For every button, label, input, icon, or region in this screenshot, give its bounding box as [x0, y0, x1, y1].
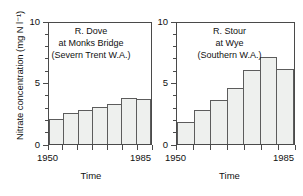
- bar-series-stour: [177, 23, 294, 144]
- y-axis-tick-label: 10: [18, 16, 40, 27]
- x-axis-tick: [92, 145, 93, 150]
- y-axis-major-tick: [171, 83, 176, 84]
- x-axis-tick-label-start: 1950: [37, 152, 58, 163]
- x-axis-tick: [122, 145, 123, 150]
- y-axis-minor-tick: [45, 46, 48, 47]
- y-axis-tick-label: 5: [146, 77, 168, 88]
- x-axis-tick: [137, 145, 138, 150]
- bar: [63, 113, 78, 144]
- y-axis-minor-tick: [173, 132, 176, 133]
- y-axis-minor-tick: [45, 132, 48, 133]
- bar: [78, 110, 93, 144]
- y-axis-minor-tick: [45, 120, 48, 121]
- bar: [136, 99, 151, 144]
- plot-area-stour: [176, 22, 295, 145]
- y-axis-major-tick: [171, 22, 176, 23]
- x-axis-tick-label-end: 1985: [273, 152, 294, 163]
- y-axis-minor-tick: [45, 95, 48, 96]
- x-axis-label-dove: Time: [30, 170, 152, 181]
- bar: [49, 119, 64, 144]
- x-axis-tick-label-end: 1985: [130, 152, 151, 163]
- y-axis-minor-tick: [173, 120, 176, 121]
- bar: [227, 88, 245, 144]
- bar: [194, 110, 212, 144]
- x-axis-tick: [48, 145, 49, 150]
- chart-panel-stour: R. Stour at Wye (Southern W.A.) Time 051…: [156, 0, 303, 196]
- y-axis-minor-tick: [45, 108, 48, 109]
- x-axis-tick: [295, 145, 296, 150]
- y-axis-minor-tick: [45, 58, 48, 59]
- bar: [276, 69, 294, 144]
- x-axis-tick: [278, 145, 279, 150]
- x-axis-tick: [193, 145, 194, 150]
- y-axis-minor-tick: [173, 71, 176, 72]
- y-axis-minor-tick: [45, 34, 48, 35]
- y-axis-minor-tick: [45, 71, 48, 72]
- x-axis-tick: [210, 145, 211, 150]
- bar: [121, 98, 136, 144]
- chart-panel-dove: R. Dove at Monks Bridge (Severn Trent W.…: [30, 0, 152, 196]
- x-axis-tick: [77, 145, 78, 150]
- x-axis-tick: [62, 145, 63, 150]
- x-axis-label-stour: Time: [156, 170, 303, 181]
- x-axis-tick: [176, 145, 177, 150]
- y-axis-minor-tick: [173, 46, 176, 47]
- y-axis-major-tick: [43, 83, 48, 84]
- x-axis-tick: [261, 145, 262, 150]
- bar: [177, 122, 195, 144]
- y-axis-minor-tick: [173, 58, 176, 59]
- x-axis-tick: [107, 145, 108, 150]
- bar: [210, 100, 228, 144]
- x-axis-tick: [244, 145, 245, 150]
- y-axis-tick-label: 0: [18, 139, 40, 150]
- y-axis-minor-tick: [173, 108, 176, 109]
- y-axis-minor-tick: [173, 34, 176, 35]
- x-axis-tick-label-start: 1950: [165, 152, 186, 163]
- bar: [107, 104, 122, 144]
- bar: [92, 107, 107, 145]
- y-axis-tick-label: 0: [146, 139, 168, 150]
- bar: [260, 57, 278, 144]
- nitrate-concentration-figure: Nitrate concentration (mg N l⁻¹) R. Dove…: [0, 0, 303, 196]
- y-axis-major-tick: [43, 22, 48, 23]
- x-axis-tick: [227, 145, 228, 150]
- plot-area-dove: [48, 22, 152, 145]
- y-axis-minor-tick: [173, 95, 176, 96]
- bar: [243, 70, 261, 144]
- y-axis-tick-label: 5: [18, 77, 40, 88]
- bar-series-dove: [49, 23, 151, 144]
- y-axis-tick-label: 10: [146, 16, 168, 27]
